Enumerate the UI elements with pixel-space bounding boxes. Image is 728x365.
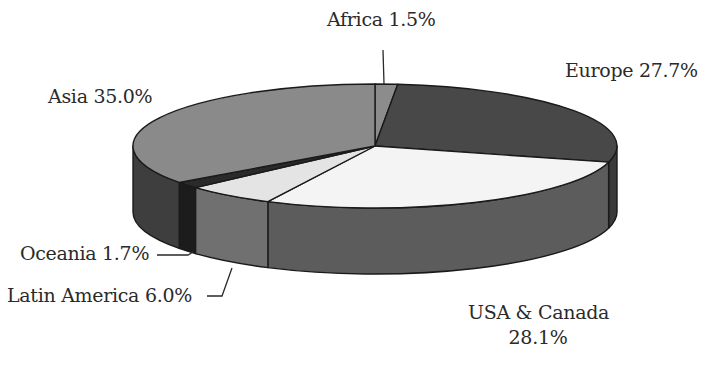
- label-latin-america: Latin America 6.0%: [7, 285, 192, 307]
- label-europe: Europe 27.7%: [565, 60, 698, 82]
- leader-line-oceania: [157, 252, 193, 255]
- leader-line-africa: [383, 50, 384, 84]
- label-usa-canada-value: 28.1%: [468, 327, 608, 349]
- pie-top-faces: [133, 84, 617, 208]
- pie-chart-3d: [0, 0, 728, 365]
- leader-line-latin-america: [207, 268, 232, 296]
- label-usa-canada-name: USA & Canada: [468, 302, 608, 324]
- label-asia: Asia 35.0%: [48, 86, 152, 108]
- label-usa-canada: USA & Canada 28.1%: [468, 302, 608, 349]
- pie-side-oceania: [179, 182, 195, 253]
- label-oceania: Oceania 1.7%: [20, 243, 149, 265]
- label-africa: Africa 1.5%: [327, 9, 436, 31]
